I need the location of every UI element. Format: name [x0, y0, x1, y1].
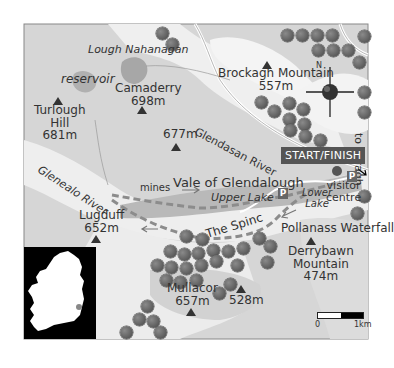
tree-icon	[358, 86, 371, 99]
label-pollanass-waterfall: Pollanass Waterfall	[281, 222, 394, 235]
tree-icon	[237, 242, 250, 255]
tree-icon	[296, 29, 309, 42]
tree-icon	[141, 300, 154, 313]
tree-icon	[180, 262, 193, 275]
tree-icon	[222, 245, 235, 258]
derrybawn-height: 474m	[288, 270, 354, 283]
start-finish-badge: START/FINISH	[281, 147, 365, 164]
label-lough-nahanagan: Lough Nahanagan	[88, 44, 188, 56]
scale-start-label: 0	[315, 321, 320, 329]
camaderry-name: Camaderry	[115, 82, 182, 95]
tree-icon	[358, 106, 371, 119]
tree-icon	[151, 259, 164, 272]
tree-icon	[314, 134, 327, 147]
label-lugduff: Lugduff 652m	[79, 209, 124, 234]
tree-icon	[195, 259, 208, 272]
peak-marker-528	[236, 285, 246, 293]
tree-icon	[231, 259, 244, 272]
tree-icon	[255, 96, 268, 109]
tree-icon	[326, 29, 339, 42]
lugduff-name: Lugduff	[79, 209, 124, 222]
label-camaderry: Camaderry 698m	[115, 82, 182, 107]
label-derrybawn-mountain: Derrybawn Mountain 474m	[288, 245, 354, 283]
label-mines: mines	[140, 183, 170, 194]
visitor-centre-marker	[332, 166, 342, 176]
tree-icon	[353, 56, 366, 69]
tree-icon	[284, 124, 297, 137]
tree-icon	[154, 326, 167, 339]
scale-bar-graphic	[317, 312, 364, 319]
mullacor-height: 657m	[167, 295, 218, 308]
tree-icon	[120, 326, 133, 339]
label-528: 528m	[229, 294, 264, 307]
tree-icon	[358, 30, 371, 43]
tree-icon	[264, 240, 277, 253]
peak-marker-mullacor	[186, 308, 196, 316]
tree-icon	[311, 29, 324, 42]
parking-icon: P	[278, 188, 288, 199]
tree-icon	[327, 44, 340, 57]
scale-end-label: 1km	[354, 321, 372, 329]
tree-icon	[297, 103, 310, 116]
lugduff-height: 652m	[79, 222, 124, 235]
label-mullacor: Mullacor 657m	[167, 282, 218, 307]
turlough-name-line1: Turlough	[34, 104, 86, 117]
tree-icon	[210, 255, 223, 268]
visitor-line2: centre	[326, 192, 361, 204]
tree-icon	[165, 261, 178, 274]
peak-marker-lugduff	[91, 235, 101, 243]
label-reservoir: reservoir	[61, 73, 115, 86]
tree-icon	[178, 248, 191, 261]
tree-icon	[281, 29, 294, 42]
tree-icon	[133, 313, 146, 326]
derrybawn-line1: Derrybawn	[288, 245, 354, 258]
tree-icon	[192, 247, 205, 260]
label-visitor-centre: visitor centre	[326, 180, 361, 203]
label-brockagh: Brockagh Mountain 557m	[218, 67, 334, 92]
tree-icon	[180, 230, 193, 243]
visitor-line1: visitor	[326, 180, 361, 192]
label-upper-lake: Upper Lake	[211, 192, 274, 204]
compass-north-label: N	[316, 62, 322, 70]
tree-icon	[164, 245, 177, 258]
peak-marker-677	[171, 143, 181, 151]
turlough-height: 681m	[34, 129, 86, 142]
tree-icon	[261, 256, 274, 269]
mullacor-name: Mullacor	[167, 282, 218, 295]
tree-icon	[299, 130, 312, 143]
tree-icon	[342, 44, 355, 57]
tree-icon	[351, 207, 364, 220]
tree-icon	[268, 105, 281, 118]
tree-icon	[283, 97, 296, 110]
ireland-outline-icon	[24, 247, 96, 339]
tree-icon	[156, 27, 169, 40]
tree-icon	[312, 44, 325, 57]
brockagh-height: 557m	[218, 80, 334, 93]
camaderry-height: 698m	[115, 95, 182, 108]
ireland-locator-inset	[24, 247, 96, 339]
label-turlough-hill: Turlough Hill 681m	[34, 104, 86, 142]
